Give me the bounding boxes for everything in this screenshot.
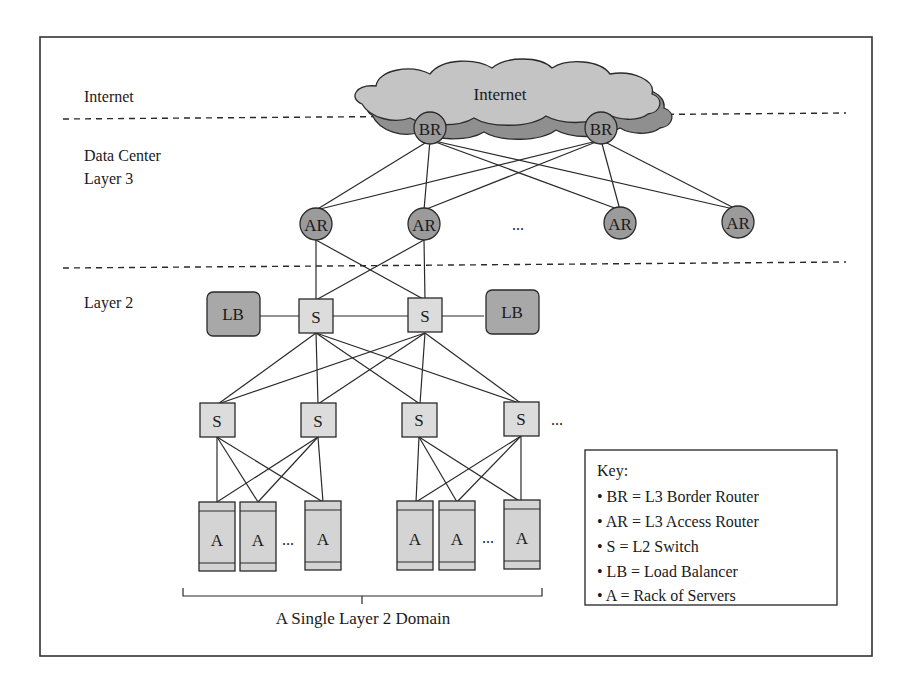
separator-layer3-layer2 bbox=[63, 262, 846, 268]
node-label: A bbox=[211, 531, 224, 550]
legend-title: Key: bbox=[597, 462, 628, 480]
node-label: A bbox=[516, 529, 529, 548]
legend-item-lb: • LB = Load Balancer bbox=[597, 563, 738, 580]
legend-item-s: • S = L2 Switch bbox=[597, 538, 699, 555]
node-label: S bbox=[414, 411, 423, 430]
legend-item-ar: • AR = L3 Access Router bbox=[597, 513, 759, 530]
node-label: BR bbox=[590, 120, 613, 139]
domain-caption: A Single Layer 2 Domain bbox=[276, 609, 451, 628]
legend-item-a: • A = Rack of Servers bbox=[597, 587, 736, 604]
access-router-4[interactable]: AR bbox=[722, 206, 754, 238]
ar-s-links bbox=[316, 240, 425, 300]
node-label: AR bbox=[726, 214, 750, 233]
br-ar-links bbox=[316, 140, 738, 210]
rack-2[interactable]: A bbox=[240, 502, 276, 571]
tor-switch-1[interactable]: S bbox=[200, 403, 235, 437]
rack-ellipsis-2: ... bbox=[482, 529, 494, 546]
layer-label-dc-layer3-line1: Data Center bbox=[84, 147, 162, 164]
node-label: S bbox=[313, 412, 322, 431]
legend-item-br: • BR = L3 Border Router bbox=[597, 488, 759, 505]
access-router-2[interactable]: AR bbox=[408, 208, 440, 240]
access-router-3[interactable]: AR bbox=[604, 207, 636, 239]
node-label: BR bbox=[419, 120, 442, 139]
tor-rack-links bbox=[217, 436, 521, 502]
tor-switch-4[interactable]: S bbox=[504, 402, 539, 436]
access-router-ellipsis: ... bbox=[512, 216, 524, 233]
node-label: AR bbox=[412, 216, 436, 235]
load-balancer-2[interactable]: LB bbox=[486, 290, 539, 334]
node-label: S bbox=[516, 410, 525, 429]
internet-cloud: Internet bbox=[355, 59, 672, 139]
node-label: AR bbox=[304, 216, 328, 235]
datacenter-network-diagram: Internet Data Center Layer 3 Layer 2 Int… bbox=[0, 0, 905, 680]
layer-label-dc-layer3-line2: Layer 3 bbox=[84, 170, 133, 188]
node-label: LB bbox=[501, 303, 523, 322]
node-label: S bbox=[212, 412, 221, 431]
rack-5[interactable]: A bbox=[439, 501, 475, 570]
rack-4[interactable]: A bbox=[397, 501, 433, 570]
tor-switch-2[interactable]: S bbox=[301, 403, 336, 437]
border-router-1[interactable]: BR bbox=[414, 112, 446, 144]
node-label: A bbox=[317, 530, 330, 549]
legend: Key: • BR = L3 Border Router • AR = L3 A… bbox=[585, 450, 837, 605]
layer-label-internet: Internet bbox=[84, 88, 134, 105]
rack-ellipsis-1: ... bbox=[282, 531, 294, 548]
border-router-2[interactable]: BR bbox=[585, 112, 617, 144]
node-label: AR bbox=[608, 215, 632, 234]
aggregation-switch-1[interactable]: S bbox=[299, 299, 333, 333]
cloud-label: Internet bbox=[474, 85, 527, 104]
rack-3[interactable]: A bbox=[305, 501, 341, 570]
tor-switch-ellipsis: ... bbox=[551, 411, 563, 428]
rack-6[interactable]: A bbox=[504, 500, 540, 569]
node-label: S bbox=[420, 307, 429, 326]
agg-tor-links bbox=[218, 333, 522, 404]
node-label: LB bbox=[222, 305, 244, 324]
rack-1[interactable]: A bbox=[199, 502, 235, 571]
node-label: A bbox=[409, 530, 422, 549]
node-label: A bbox=[252, 531, 265, 550]
layer-label-layer2: Layer 2 bbox=[84, 294, 133, 312]
tor-switch-3[interactable]: S bbox=[402, 403, 437, 437]
aggregation-switch-2[interactable]: S bbox=[408, 298, 442, 332]
node-label: S bbox=[311, 308, 320, 327]
access-router-1[interactable]: AR bbox=[300, 208, 332, 240]
load-balancer-1[interactable]: LB bbox=[207, 292, 260, 336]
node-label: A bbox=[451, 530, 464, 549]
layer2-domain-bracket bbox=[183, 588, 542, 604]
